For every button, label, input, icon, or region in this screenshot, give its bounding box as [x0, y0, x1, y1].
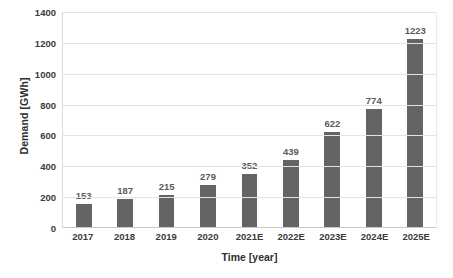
bar[interactable]: 1223 [407, 39, 423, 228]
bar-value-label: 439 [283, 146, 299, 157]
bar-value-label: 622 [324, 118, 340, 129]
x-axis-title: Time [year] [62, 251, 437, 263]
bar-slot: 153 [63, 12, 104, 228]
bar-slot: 439 [270, 12, 311, 228]
x-axis-tick-label: 2024E [354, 231, 396, 242]
y-axis-tick-label: 400 [40, 161, 56, 172]
gridline [63, 105, 436, 106]
x-axis-tick-label: 2022E [270, 231, 312, 242]
bar[interactable]: 187 [117, 199, 133, 228]
bar-slot: 215 [146, 12, 187, 228]
bar-slot: 1223 [395, 12, 436, 228]
x-axis-tick-label: 2020 [187, 231, 229, 242]
bar-value-label: 1223 [405, 25, 426, 36]
bar-slot: 187 [104, 12, 145, 228]
bar-chart: Demand [GWh] 0200400600800100012001400 1… [0, 0, 453, 278]
gridline [63, 166, 436, 167]
x-axis-tick-label: 2019 [145, 231, 187, 242]
axis-baseline [63, 227, 436, 228]
bar-slot: 774 [353, 12, 394, 228]
x-axis-tick-label: 2017 [62, 231, 104, 242]
y-axis-tick-label: 0 [51, 223, 56, 234]
x-axis-tick-label: 2023E [312, 231, 354, 242]
bar-value-label: 215 [159, 181, 175, 192]
bar[interactable]: 622 [324, 132, 340, 228]
gridline [63, 12, 436, 13]
plot-area: 1531872152793524396227741223 [62, 12, 437, 228]
gridline [63, 197, 436, 198]
bar-value-label: 153 [76, 190, 92, 201]
y-axis-tick-label: 200 [40, 192, 56, 203]
x-axis-tick-label: 2025E [395, 231, 437, 242]
y-axis-tick-label: 1400 [35, 7, 56, 18]
gridline [63, 74, 436, 75]
bar[interactable]: 352 [242, 174, 258, 228]
bar[interactable]: 215 [159, 195, 175, 228]
y-axis-tick-label: 1200 [35, 37, 56, 48]
bar[interactable]: 774 [366, 109, 382, 228]
y-axis-tick-label: 800 [40, 99, 56, 110]
bar-slot: 352 [229, 12, 270, 228]
bar-slot: 622 [312, 12, 353, 228]
bar-value-label: 352 [242, 160, 258, 171]
bar-series: 1531872152793524396227741223 [63, 12, 436, 228]
gridline [63, 43, 436, 44]
y-axis-tick-label: 1000 [35, 68, 56, 79]
x-axis-tick-label: 2021E [229, 231, 271, 242]
gridline [63, 135, 436, 136]
bar[interactable]: 439 [283, 160, 299, 228]
bar-value-label: 187 [117, 185, 133, 196]
bar-value-label: 279 [200, 171, 216, 182]
bar[interactable]: 153 [76, 204, 92, 228]
bar-slot: 279 [187, 12, 228, 228]
bar[interactable]: 279 [200, 185, 216, 228]
x-axis-tick-label: 2018 [104, 231, 146, 242]
y-axis-tick-labels: 0200400600800100012001400 [20, 12, 56, 228]
y-axis-tick-label: 600 [40, 130, 56, 141]
x-axis-tick-labels: 20172018201920202021E2022E2023E2024E2025… [62, 231, 437, 242]
